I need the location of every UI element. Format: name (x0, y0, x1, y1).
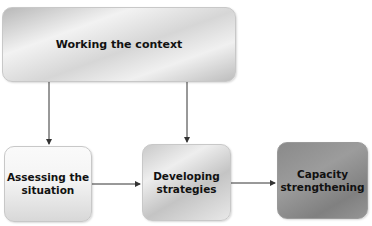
node-assessing-the-situation: Assessing the situation (4, 146, 92, 222)
node-label-line2: strategies (153, 183, 220, 196)
node-label-line2: strengthening (280, 181, 364, 194)
node-label: Working the context (56, 38, 183, 51)
node-developing-strategies: Developing strategies (142, 144, 231, 221)
node-label-line2: situation (7, 184, 89, 197)
node-label-line1: Capacity (280, 168, 364, 181)
node-capacity-strengthening: Capacity strengthening (277, 142, 368, 219)
node-label-line1: Assessing the (7, 171, 89, 184)
node-label-line1: Developing (153, 170, 220, 183)
node-working-the-context: Working the context (2, 7, 236, 82)
